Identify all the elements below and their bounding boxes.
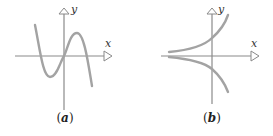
y-axis-arrow-icon-b bbox=[207, 8, 217, 14]
figure-canvas: y x (a) y x (b) bbox=[0, 0, 273, 136]
panel-a: y x (a) bbox=[15, 3, 112, 125]
x-axis-arrow-icon-b bbox=[251, 51, 259, 61]
y-axis-arrow-icon-a bbox=[59, 8, 69, 14]
y-axis-label-b: y bbox=[217, 3, 225, 16]
y-axis-label-a: y bbox=[70, 3, 78, 16]
exp-curve-upper-b bbox=[169, 15, 228, 52]
panel-b: y x (b) bbox=[161, 3, 259, 125]
x-axis-label-b: x bbox=[251, 37, 258, 50]
caption-a: (a) bbox=[56, 111, 73, 125]
exp-curve-lower-b bbox=[169, 57, 228, 92]
x-axis-label-a: x bbox=[105, 37, 112, 50]
x-axis-arrow-icon-a bbox=[104, 51, 112, 61]
caption-b: (b) bbox=[203, 111, 221, 125]
